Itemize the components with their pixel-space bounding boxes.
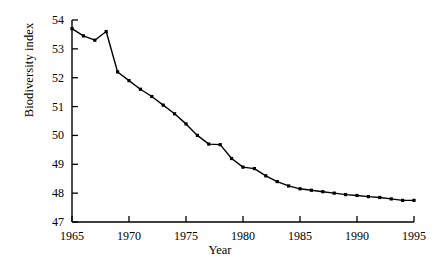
y-tick-label: 47: [38, 216, 64, 228]
data-point-marker: [105, 30, 108, 33]
x-tick-label: 1975: [164, 230, 208, 242]
data-point-marker: [401, 199, 404, 202]
data-series-markers: [70, 27, 415, 202]
data-point-marker: [344, 193, 347, 196]
data-point-marker: [219, 143, 222, 146]
y-tick-label: 48: [38, 187, 64, 199]
y-tick-label: 51: [38, 101, 64, 113]
data-point-marker: [276, 180, 279, 183]
data-point-marker: [70, 27, 73, 30]
y-tick-label: 50: [38, 129, 64, 141]
data-point-marker: [378, 196, 381, 199]
data-point-marker: [264, 174, 267, 177]
data-series-line: [72, 29, 414, 201]
y-tick-label: 54: [38, 14, 64, 26]
data-point-marker: [367, 195, 370, 198]
data-point-marker: [116, 70, 119, 73]
data-point-marker: [241, 166, 244, 169]
data-point-marker: [162, 104, 165, 107]
data-point-marker: [253, 167, 256, 170]
x-tick-label: 1985: [278, 230, 322, 242]
y-tick-label: 52: [38, 72, 64, 84]
data-point-marker: [298, 187, 301, 190]
data-point-marker: [287, 184, 290, 187]
data-point-marker: [139, 88, 142, 91]
x-tick-label: 1980: [221, 230, 265, 242]
data-point-marker: [310, 189, 313, 192]
data-point-marker: [93, 39, 96, 42]
y-tick-label: 49: [38, 158, 64, 170]
data-point-marker: [207, 142, 210, 145]
data-point-marker: [333, 192, 336, 195]
data-point-marker: [412, 199, 415, 202]
chart-figure: Biodiversity index Year 4748495051525354…: [0, 0, 440, 269]
x-axis-ticks: [72, 216, 414, 222]
data-point-marker: [196, 134, 199, 137]
y-axis-ticks: [72, 20, 78, 222]
data-point-marker: [150, 95, 153, 98]
data-point-marker: [184, 122, 187, 125]
data-point-marker: [230, 157, 233, 160]
data-point-marker: [355, 194, 358, 197]
chart-axes: [72, 20, 414, 222]
data-point-marker: [173, 112, 176, 115]
y-tick-label: 53: [38, 43, 64, 55]
data-point-marker: [321, 190, 324, 193]
data-point-marker: [82, 34, 85, 37]
x-tick-label: 1970: [107, 230, 151, 242]
data-point-marker: [390, 197, 393, 200]
x-tick-label: 1990: [335, 230, 379, 242]
x-tick-label: 1965: [50, 230, 94, 242]
x-tick-label: 1995: [392, 230, 436, 242]
data-point-marker: [127, 79, 130, 82]
